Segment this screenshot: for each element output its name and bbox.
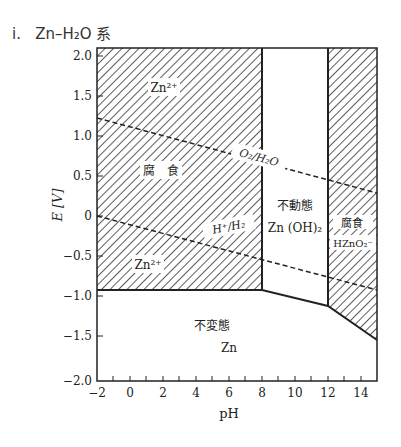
- label-immunity: 不変態: [194, 318, 230, 333]
- xtick: −2: [88, 386, 106, 400]
- label-zn: Zn: [221, 341, 237, 355]
- xtick: 6: [225, 386, 233, 400]
- ytick: 1.0: [73, 129, 92, 143]
- label-zn2-bottom: Zn²⁺: [134, 258, 161, 272]
- ytick: −1.5: [63, 329, 92, 343]
- ytick: 0: [84, 209, 92, 223]
- xtick: 14: [353, 386, 369, 400]
- xtick: 2: [159, 386, 167, 400]
- ytick: 1.5: [73, 89, 92, 103]
- ytick: −0.5: [63, 249, 92, 263]
- xtick: 12: [320, 386, 335, 400]
- xtick: 10: [287, 386, 302, 400]
- label-passivity: 不動態: [277, 198, 313, 213]
- y-axis-label: E [V]: [50, 187, 65, 222]
- ytick: 2.0: [73, 49, 92, 63]
- label-zn-oh2: Zn (OH)₂: [268, 221, 323, 235]
- xtick: 4: [192, 386, 200, 400]
- label-corrosion-right: 腐食: [341, 216, 363, 230]
- label-hzno2: HZnO₂⁻: [333, 238, 373, 249]
- pourbaix-diagram: 2.0 1.5 1.0 0.5 0 −0.5 −1.0 −1.5 −2.0 −2…: [0, 0, 401, 447]
- corrosion-region-alkaline: [328, 48, 377, 340]
- x-axis-label: pH: [219, 406, 239, 421]
- xtick: 0: [126, 386, 134, 400]
- xtick: 8: [258, 386, 266, 400]
- label-zn2-top: Zn²⁺: [150, 81, 177, 95]
- ytick: 0.5: [73, 169, 92, 183]
- ytick: −1.0: [63, 289, 92, 303]
- label-corrosion-left: 腐 食: [143, 163, 179, 178]
